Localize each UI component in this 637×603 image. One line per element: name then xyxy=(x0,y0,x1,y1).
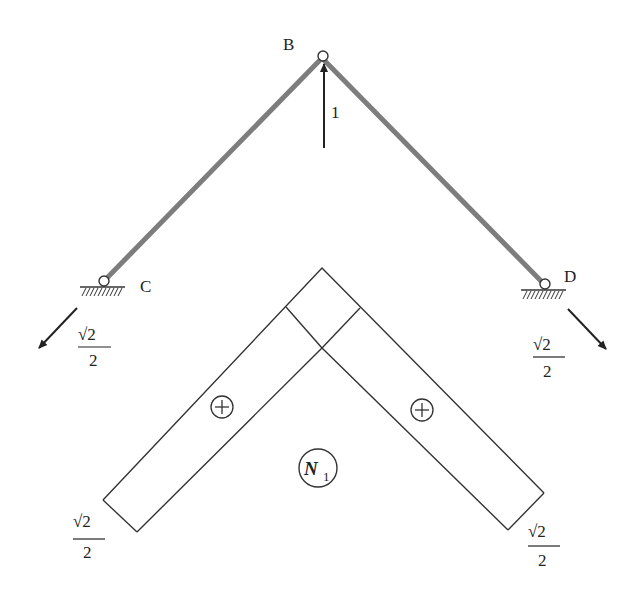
reaction-arrow-d-icon xyxy=(568,309,606,349)
svg-text:√2: √2 xyxy=(73,512,91,531)
hinge-node-d xyxy=(540,279,550,289)
diagram-label-n1: N 1 xyxy=(299,449,337,487)
svg-text:√2: √2 xyxy=(78,325,96,344)
support-c-icon xyxy=(80,287,125,296)
hinge-node-b xyxy=(318,51,328,61)
reaction-value-c: √2 2 xyxy=(78,325,111,370)
sign-plus-left-icon xyxy=(211,396,233,418)
hinge-node-c xyxy=(99,276,109,286)
node-label-b: B xyxy=(283,35,294,54)
load-label: 1 xyxy=(331,103,340,122)
svg-text:2: 2 xyxy=(543,362,552,381)
reaction-arrow-c-icon xyxy=(39,308,77,348)
node-label-d: D xyxy=(564,267,576,286)
reaction-value-d: √2 2 xyxy=(533,335,565,381)
svg-text:2: 2 xyxy=(89,351,98,370)
svg-text:N: N xyxy=(303,458,319,479)
end-value-right: √2 2 xyxy=(528,522,560,570)
member-BD xyxy=(322,58,544,284)
svg-text:2: 2 xyxy=(83,543,92,562)
svg-text:√2: √2 xyxy=(528,522,546,541)
sign-plus-right-icon xyxy=(411,399,433,421)
support-d-icon xyxy=(521,290,566,299)
truss-diagram: B C D 1 √2 2 √2 2 xyxy=(0,0,637,603)
member-BC xyxy=(104,58,322,281)
svg-text:2: 2 xyxy=(538,551,547,570)
svg-text:1: 1 xyxy=(323,469,330,484)
svg-text:√2: √2 xyxy=(533,335,551,354)
axial-force-diagram xyxy=(103,268,544,532)
node-label-c: C xyxy=(140,277,151,296)
end-value-left: √2 2 xyxy=(73,512,105,562)
